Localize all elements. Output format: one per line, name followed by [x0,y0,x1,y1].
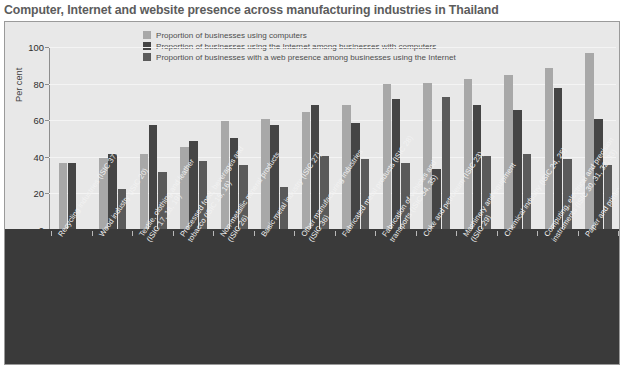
x-axis-tick-mark [254,231,255,236]
x-axis-tick-mark [132,231,133,236]
y-axis-tick-label: 80 [34,78,44,89]
x-axis-tick-mark [213,231,214,236]
x-axis-tick-mark [173,231,174,236]
x-axis-tick-mark [497,231,498,236]
y-axis-tick-label: 20 [34,188,44,199]
x-axis-tick-mark [335,231,336,236]
plot-frame: Proportion of businesses using computers… [4,21,620,365]
x-axis-tick-mark [92,231,93,236]
legend-item-label: Proportion of businesses using computers [156,31,307,40]
y-axis-tick-label: 100 [28,42,44,53]
bar[interactable] [545,68,554,229]
bar[interactable] [504,75,513,229]
y-axis-tick-label: 40 [34,151,44,162]
x-axis-tick-strip [49,231,616,237]
x-axis-tick-mark [375,231,376,236]
x-axis-tick-mark [578,231,579,236]
bar[interactable] [383,84,392,229]
x-axis-label-band: Recycling industries (ISIC 37)Wood indus… [5,229,619,364]
x-axis-tick-mark [416,231,417,236]
chart-figure: Computer, Internet and website presence … [0,0,624,369]
bar[interactable] [585,53,594,229]
x-axis-tick-mark [537,231,538,236]
y-axis-tick-label: 60 [34,115,44,126]
x-axis-tick-mark [294,231,295,236]
y-axis-line [49,47,50,231]
x-axis-tick-mark [51,231,52,236]
legend-swatch-icon [143,31,151,39]
bar[interactable] [423,83,432,229]
legend-item-computers: Proportion of businesses using computers [143,30,563,40]
bar[interactable] [464,79,473,229]
page-title: Computer, Internet and website presence … [4,1,620,19]
x-axis-tick-mark [456,231,457,236]
x-axis-tick-mark [618,231,619,236]
